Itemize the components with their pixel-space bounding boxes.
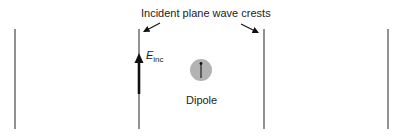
dipole-icon: [190, 59, 212, 81]
pointer-arrow-right-icon: [241, 24, 258, 33]
diagram-title: Incident plane wave crests: [141, 8, 271, 19]
field-subscript: inc: [153, 55, 163, 64]
dipole-label: Dipole: [186, 95, 217, 106]
diagram-graphics: [0, 0, 400, 138]
field-label: Einc: [146, 50, 164, 61]
diagram-canvas: Incident plane wave crests Einc Dipole: [0, 0, 400, 138]
field-vector-arrow-icon: [135, 53, 144, 94]
pointer-arrow-left-icon: [144, 23, 160, 32]
